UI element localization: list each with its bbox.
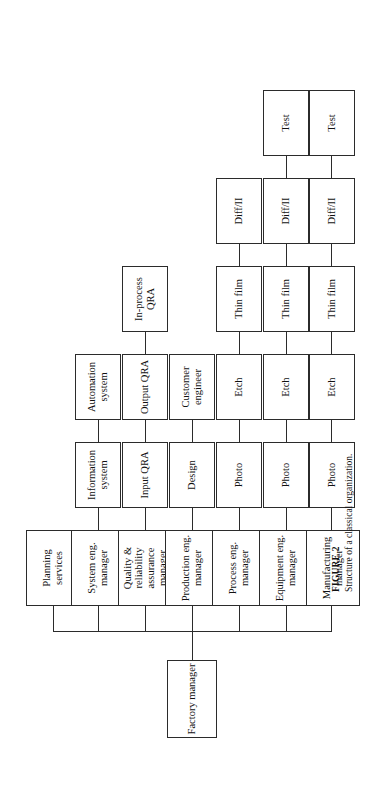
node-label: Photo (233, 463, 245, 488)
node-input-qra[interactable]: Input QRA (122, 442, 168, 508)
connector-equipment-thin-film-to-diff (286, 244, 287, 266)
node-equipment-test[interactable]: Test (263, 90, 309, 156)
node-label: Input QRA (139, 452, 151, 499)
node-label: Production eng. manager (180, 533, 204, 603)
connector-quality-to-input-qra (145, 508, 146, 530)
connector-input-to-output-qra (145, 420, 146, 442)
figure-caption-label: FIGURE 2 (330, 412, 343, 592)
node-automation-system[interactable]: Automation system (75, 354, 121, 420)
node-process-photo[interactable]: Photo (216, 442, 262, 508)
node-equipment-diff[interactable]: Diff/II (263, 178, 309, 244)
node-label: Etch (326, 377, 338, 396)
node-label: Planning services (41, 533, 65, 603)
node-label: Factory manager (186, 664, 198, 735)
node-customer-engineer[interactable]: Customer engineer (169, 354, 215, 420)
node-label: Diff/II (280, 197, 292, 224)
connector-process-etch-to-thin-film (239, 332, 240, 354)
node-label: Etch (233, 377, 245, 396)
node-process-thin-film[interactable]: Thin film (216, 266, 262, 332)
connector-process-photo-to-etch (239, 420, 240, 442)
connector-process-thin-film-to-diff (239, 244, 240, 266)
node-label: Quality & reliability assurance manager (121, 533, 168, 603)
node-label: Design (186, 460, 198, 490)
node-label: Thin film (280, 279, 292, 319)
org-chart-canvas: Factory manager Planning services System… (17, 4, 369, 746)
connector-spine-to-process-eng-manager (239, 606, 240, 632)
node-label: Output QRA (139, 360, 151, 414)
node-label: Thin film (326, 279, 338, 319)
node-label: In-process QRA (133, 269, 157, 329)
connector-spine-to-equipment-eng-manager (286, 606, 287, 632)
node-quality-reliability-assurance-manager[interactable]: Quality & reliability assurance manager (118, 530, 172, 606)
node-manufacturing-etch[interactable]: Etch (309, 354, 355, 420)
node-system-eng-manager[interactable]: System eng. manager (71, 530, 125, 606)
connector-equipment-photo-to-etch (286, 420, 287, 442)
node-manufacturing-thin-film[interactable]: Thin film (309, 266, 355, 332)
connector-equipment-diff-to-test (286, 156, 287, 178)
connector-manufacturing-diff-to-test (331, 156, 332, 178)
node-process-etch[interactable]: Etch (216, 354, 262, 420)
figure-caption-text: Structure of a classical organization. (343, 412, 356, 592)
node-process-eng-manager[interactable]: Process eng. manager (212, 530, 266, 606)
node-equipment-thin-film[interactable]: Thin film (263, 266, 309, 332)
connector-manufacturing-thin-film-to-diff (331, 244, 332, 266)
node-label: Diff/II (326, 197, 338, 224)
connector-equipment-to-photo (286, 508, 287, 530)
connector-production-to-design (192, 508, 193, 530)
connector-manufacturing-etch-to-thin-film (331, 332, 332, 354)
node-label: Etch (280, 377, 292, 396)
node-label: Thin film (233, 279, 245, 319)
node-equipment-etch[interactable]: Etch (263, 354, 309, 420)
connector-information-to-automation-system (98, 420, 99, 442)
node-manufacturing-test[interactable]: Test (309, 90, 355, 156)
connector-spine-to-planning-services (53, 606, 54, 632)
figure-caption: FIGURE 2 Structure of a classical organi… (330, 412, 355, 592)
node-label: Process eng. manager (227, 533, 251, 603)
node-factory-manager[interactable]: Factory manager (167, 660, 217, 738)
connector-system-to-information-system (98, 508, 99, 530)
connector-output-to-in-process-qra (145, 332, 146, 354)
node-process-diff[interactable]: Diff/II (216, 178, 262, 244)
connector-equipment-etch-to-thin-film (286, 332, 287, 354)
connector-spine-to-quality-manager (145, 606, 146, 632)
node-label: Test (280, 114, 292, 131)
connector-root-to-spine (192, 632, 193, 660)
node-label: Test (326, 114, 338, 131)
connector-spine-to-system-eng-manager (98, 606, 99, 632)
node-information-system[interactable]: Information system (75, 442, 121, 508)
node-label: Diff/II (233, 197, 245, 224)
node-label: Customer engineer (180, 357, 204, 417)
connector-spine-to-manufacturing-manager (331, 606, 332, 632)
connector-process-to-photo (239, 508, 240, 530)
connector-design-to-customer-engineer (192, 420, 193, 442)
node-output-qra[interactable]: Output QRA (122, 354, 168, 420)
node-equipment-photo[interactable]: Photo (263, 442, 309, 508)
node-design[interactable]: Design (169, 442, 215, 508)
node-manufacturing-diff[interactable]: Diff/II (309, 178, 355, 244)
node-label: System eng. manager (86, 533, 110, 603)
node-label: Information system (86, 445, 110, 505)
node-production-eng-manager[interactable]: Production eng. manager (165, 530, 219, 606)
node-label: Photo (280, 463, 292, 488)
node-equipment-eng-manager[interactable]: Equipment eng. manager (259, 530, 313, 606)
node-label: Equipment eng. manager (274, 533, 298, 603)
connector-spine-to-production-eng-manager (192, 606, 193, 632)
node-in-process-qra[interactable]: In-process QRA (122, 266, 168, 332)
node-label: Automation system (86, 357, 110, 417)
